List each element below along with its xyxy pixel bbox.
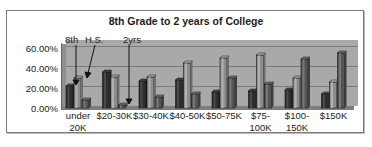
arrow-hs (88, 45, 95, 73)
annotation-arrows (0, 0, 372, 147)
